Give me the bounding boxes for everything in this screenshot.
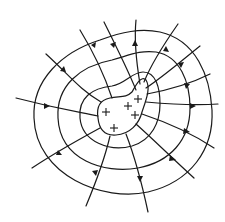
arrow-icon <box>163 46 169 52</box>
field-line-8 <box>147 74 210 94</box>
arrow-icon <box>137 176 143 182</box>
field-line-9 <box>146 102 218 105</box>
figure-title: Electric field lines and equipotential s… <box>0 0 37 1</box>
arrow-icon <box>169 155 176 161</box>
plus-charge-5 <box>110 124 118 132</box>
arrowheads <box>44 40 196 182</box>
plus-charge-3 <box>134 95 142 103</box>
field-lines <box>16 20 218 212</box>
field-line-4 <box>104 22 136 90</box>
arrow-icon <box>184 83 190 89</box>
arrow-icon <box>92 170 98 176</box>
charges <box>102 95 142 132</box>
plus-charge-4 <box>131 111 139 119</box>
arrow-icon <box>190 103 196 109</box>
arrow-icon <box>44 103 50 109</box>
field-line-12 <box>126 134 148 212</box>
field-diagram <box>0 0 225 222</box>
arrow-icon <box>132 40 138 46</box>
equipotential-middle <box>58 52 190 170</box>
plus-charge-2 <box>124 102 132 110</box>
field-line-1 <box>16 98 98 116</box>
plus-charge-1 <box>102 108 110 116</box>
